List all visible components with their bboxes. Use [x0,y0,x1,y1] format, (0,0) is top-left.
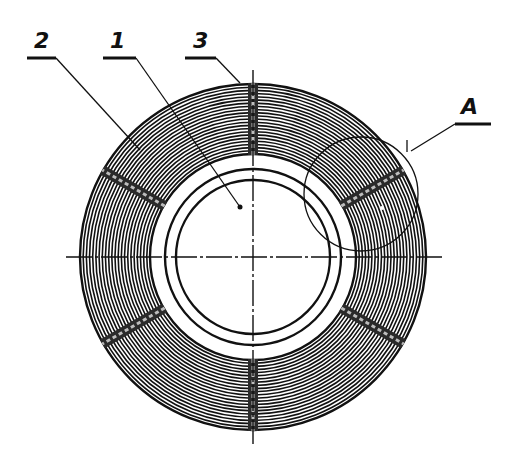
callout-label-a: A [461,96,478,118]
callout-label-2: 2 [34,30,49,52]
leader-2 [56,58,140,150]
leader-a [411,124,455,151]
spot [380,206,384,210]
leader-3 [216,58,240,83]
callout-label-3: 3 [193,30,208,52]
callout-label-1: 1 [110,30,125,52]
coil-cross-section-drawing [0,0,516,457]
